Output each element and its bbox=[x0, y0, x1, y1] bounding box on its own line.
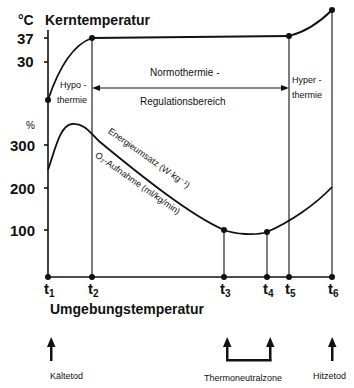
hypothermia-label-1: Hypo - bbox=[60, 80, 87, 90]
thermoneutral-bracket-icon bbox=[226, 359, 272, 362]
tick-t3: t3 bbox=[220, 280, 231, 299]
tick-37: 37 bbox=[17, 30, 34, 47]
regulation-range-label: Regulationsbereich bbox=[140, 96, 226, 107]
tick-100: 100 bbox=[10, 222, 35, 239]
arrow-right-icon bbox=[281, 85, 289, 91]
hyperthermia-label-2: thermie bbox=[292, 90, 322, 100]
tick-t1: t1 bbox=[44, 280, 55, 299]
tick-t5: t5 bbox=[285, 280, 296, 299]
normothermia-label: Normothermie - bbox=[150, 67, 219, 78]
tick-30: 30 bbox=[17, 53, 34, 70]
thermoneutral-zone-label: Thermoneutralzone bbox=[204, 373, 282, 383]
tick-t4: t4 bbox=[263, 280, 274, 299]
heat-death-arrow-icon bbox=[331, 345, 334, 361]
percent-unit: % bbox=[26, 120, 35, 131]
diagram-canvas bbox=[0, 0, 354, 388]
hypothermia-label-2: thermie bbox=[57, 95, 87, 105]
heat-death-label: Hitzetod bbox=[313, 371, 346, 381]
cold-death-label: Kältetod bbox=[50, 371, 83, 381]
ambient-temperature-title: Umgebungstemperatur bbox=[50, 301, 204, 317]
cold-death-arrow-icon bbox=[50, 345, 53, 361]
core-temperature-title: Kerntemperatur bbox=[45, 12, 150, 28]
temperature-unit: °C bbox=[18, 12, 34, 28]
tick-300: 300 bbox=[10, 137, 35, 154]
tick-200: 200 bbox=[10, 180, 35, 197]
hyperthermia-label-1: Hyper - bbox=[292, 75, 322, 85]
tick-t2: t2 bbox=[88, 280, 99, 299]
tick-t6: t6 bbox=[328, 280, 339, 299]
arrow-left-icon bbox=[92, 85, 100, 91]
